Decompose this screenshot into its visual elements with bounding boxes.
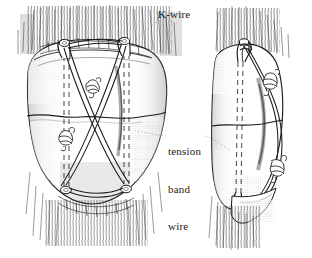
panel-lateral-view bbox=[208, 6, 289, 250]
illustration-canvas bbox=[0, 0, 312, 258]
label-tension-line-1: tension bbox=[168, 145, 201, 158]
label-tension-line-2: band bbox=[168, 183, 201, 196]
label-tension-band-wire: tension band wire bbox=[168, 120, 201, 258]
label-k-wire: K-wire bbox=[158, 8, 190, 21]
medical-illustration-figure: K-wire tension band wire bbox=[0, 0, 312, 258]
panel-anterior-view bbox=[18, 5, 182, 246]
label-tension-line-3: wire bbox=[168, 220, 201, 233]
k-wire-end-bottom-right bbox=[121, 185, 132, 193]
